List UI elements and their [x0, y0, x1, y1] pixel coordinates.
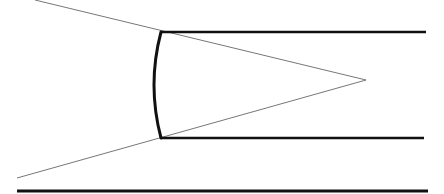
optics-diagram [0, 0, 444, 194]
background [0, 0, 444, 194]
